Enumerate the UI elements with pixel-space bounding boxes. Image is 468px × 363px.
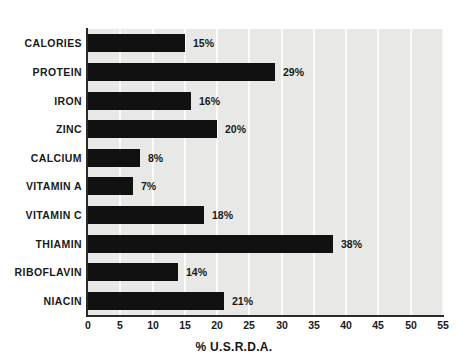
bar-track: 29% <box>88 63 443 81</box>
bar-row: RIBOFLAVIN14% <box>0 263 468 281</box>
bar-value-label: 29% <box>283 63 304 81</box>
x-axis-line <box>86 315 444 317</box>
x-tick-label: 50 <box>396 319 426 331</box>
bar-row: NIACIN21% <box>0 292 468 310</box>
bar-track: 15% <box>88 34 443 52</box>
bar <box>88 263 178 281</box>
bar-row: CALCIUM8% <box>0 149 468 167</box>
bar-value-label: 20% <box>225 120 246 138</box>
bar-value-label: 21% <box>232 292 253 310</box>
x-tick-label: 40 <box>331 319 361 331</box>
bar-track: 21% <box>88 292 443 310</box>
bar <box>88 120 217 138</box>
bar <box>88 149 140 167</box>
bar <box>88 63 275 81</box>
bar-row: VITAMIN C18% <box>0 206 468 224</box>
bar-track: 20% <box>88 120 443 138</box>
x-tick-label: 45 <box>363 319 393 331</box>
bar-value-label: 18% <box>212 206 233 224</box>
x-axis-title: % U.S.R.D.A. <box>0 340 468 354</box>
bar <box>88 177 133 195</box>
x-tick-label: 25 <box>234 319 264 331</box>
x-tick-label: 0 <box>73 319 103 331</box>
bar-value-label: 16% <box>199 92 220 110</box>
bar-category-label: RIBOFLAVIN <box>15 263 82 281</box>
bar-track: 38% <box>88 235 443 253</box>
bar <box>88 34 185 52</box>
bar-category-label: ZINC <box>56 120 82 138</box>
bar-row: IRON16% <box>0 92 468 110</box>
bar-track: 16% <box>88 92 443 110</box>
bar-track: 7% <box>88 177 443 195</box>
x-tick-label: 15 <box>170 319 200 331</box>
bar-track: 18% <box>88 206 443 224</box>
bar-category-label: VITAMIN C <box>26 206 83 224</box>
x-tick-label: 35 <box>299 319 329 331</box>
bar-row: THIAMIN38% <box>0 235 468 253</box>
bar-track: 8% <box>88 149 443 167</box>
bar-category-label: CALORIES <box>25 34 82 52</box>
bar-track: 14% <box>88 263 443 281</box>
bar <box>88 292 224 310</box>
bar-category-label: IRON <box>54 92 82 110</box>
bar <box>88 206 204 224</box>
bar-value-label: 7% <box>141 177 156 195</box>
x-tick-label: 20 <box>202 319 232 331</box>
bar-row: CALORIES15% <box>0 34 468 52</box>
bar-value-label: 14% <box>186 263 207 281</box>
bar-chart: CALORIES15%PROTEIN29%IRON16%ZINC20%CALCI… <box>0 0 468 363</box>
x-tick-label: 30 <box>267 319 297 331</box>
bar-row: ZINC20% <box>0 120 468 138</box>
bar-category-label: CALCIUM <box>31 149 82 167</box>
bar-value-label: 38% <box>341 235 362 253</box>
bar-category-label: THIAMIN <box>35 235 82 253</box>
bar-row: VITAMIN A7% <box>0 177 468 195</box>
bar-category-label: NIACIN <box>43 292 82 310</box>
x-tick-label: 5 <box>105 319 135 331</box>
x-tick-label: 10 <box>138 319 168 331</box>
bar-category-label: VITAMIN A <box>26 177 82 195</box>
bar <box>88 92 191 110</box>
bar-value-label: 15% <box>193 34 214 52</box>
bar <box>88 235 333 253</box>
bar-category-label: PROTEIN <box>33 63 82 81</box>
bar-row: PROTEIN29% <box>0 63 468 81</box>
x-tick-label: 55 <box>428 319 458 331</box>
bar-value-label: 8% <box>148 149 163 167</box>
